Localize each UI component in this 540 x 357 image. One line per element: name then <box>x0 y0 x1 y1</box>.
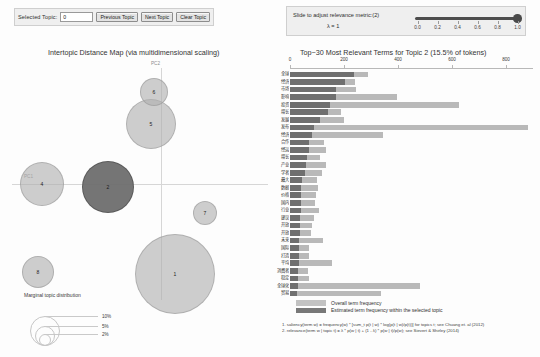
bar-chart-row[interactable]: 最大 <box>272 177 534 184</box>
bar-topic-frequency <box>290 87 336 93</box>
bar-term-label[interactable]: 学者 <box>272 170 289 176</box>
bar-term-label[interactable]: 开放 <box>272 222 289 228</box>
slider-tick-label: 0.0 <box>414 25 420 30</box>
bar-term-label[interactable]: 经济 <box>272 79 289 85</box>
bar-chart-row[interactable]: 稳定 <box>272 275 534 282</box>
bar-chart-row[interactable]: 学者 <box>272 169 534 176</box>
bar-chart-row[interactable]: 合作 <box>272 139 534 146</box>
bar-term-label[interactable]: 消费者 <box>272 268 289 274</box>
bar-term-label[interactable]: 平均 <box>272 260 289 266</box>
bar-topic-frequency <box>290 185 301 191</box>
marginal-legend-label: 5% <box>102 324 109 329</box>
bar-term-label[interactable]: 建议 <box>272 215 289 221</box>
bar-topic-frequency <box>290 170 305 176</box>
bar-chart-row[interactable]: 消费者 <box>272 267 534 274</box>
bar-term-label[interactable]: 价格 <box>272 192 289 198</box>
bar-chart-row[interactable]: 国际 <box>272 245 534 252</box>
bar-chart-row[interactable]: 发布 <box>272 124 534 131</box>
bar-chart-axis <box>290 68 533 69</box>
bar-term-label[interactable]: 开放 <box>272 230 289 236</box>
bar-chart-row[interactable]: 产业 <box>272 162 534 169</box>
relevance-instruction: Slide to adjust relevance metric:(2) <box>293 12 379 18</box>
bar-chart-row[interactable]: 建议 <box>272 214 534 221</box>
bar-chart-row[interactable]: 未来 <box>272 237 534 244</box>
bar-term-label[interactable]: 产业 <box>272 162 289 168</box>
previous-topic-button[interactable]: Previous Topic <box>96 12 138 22</box>
bar-chart-row[interactable]: 国内 <box>272 199 534 206</box>
bar-chart-row[interactable]: 数据 <box>272 184 534 191</box>
bar-overall-frequency <box>290 283 420 289</box>
selected-topic-input[interactable]: 0 <box>60 12 93 22</box>
topic-circle-label-7: 7 <box>204 210 207 216</box>
intertopic-distance-map[interactable]: PC2 PC1 1245678 <box>12 60 268 300</box>
bar-chart-row[interactable]: 市场 <box>272 86 534 93</box>
bar-chart-row[interactable]: 开放 <box>272 222 534 229</box>
bar-chart-row[interactable]: 行业 <box>272 207 534 214</box>
bar-term-label[interactable]: 行业 <box>272 207 289 213</box>
bar-term-label[interactable]: 增长 <box>272 154 289 160</box>
bar-chart-row[interactable]: 经济 <box>272 131 534 138</box>
bar-term-label[interactable]: 发展 <box>272 117 289 123</box>
bar-topic-frequency <box>290 155 307 161</box>
marginal-legend-title: Marginal topic distribution <box>24 292 81 298</box>
bar-chart-row[interactable]: 平均 <box>272 260 534 267</box>
bar-term-label[interactable]: 最大 <box>272 177 289 183</box>
bar-term-label[interactable]: 全球 <box>272 71 289 77</box>
bar-term-label[interactable]: 打造 <box>272 253 289 259</box>
bar-legend-label: Overall term frequency <box>331 300 382 306</box>
bar-term-label[interactable]: 国际 <box>272 245 289 251</box>
bar-topic-frequency <box>290 192 301 198</box>
marginal-legend-label: 2% <box>102 332 109 337</box>
bar-overall-frequency <box>290 291 381 297</box>
bar-term-label[interactable]: 国内 <box>272 200 289 206</box>
bar-topic-frequency <box>290 140 309 146</box>
footnote: 2. relevance(term w | topic t) = λ * p(w… <box>282 328 538 334</box>
bar-topic-frequency <box>290 215 300 221</box>
bar-chart-row[interactable]: 价格 <box>272 192 534 199</box>
bar-term-label[interactable]: 市场 <box>272 86 289 92</box>
bar-topic-frequency <box>290 291 297 297</box>
slider-tick-label: 0.8 <box>494 25 500 30</box>
bar-term-label[interactable]: 数据 <box>272 185 289 191</box>
relevance-slider[interactable]: 0.00.20.40.60.81.0 <box>415 13 519 33</box>
bar-chart-row[interactable]: 发展 <box>272 116 534 123</box>
bar-topic-frequency <box>290 72 354 78</box>
bar-chart-xtick-label: 200 <box>340 57 348 62</box>
bar-term-label[interactable]: 合作 <box>272 139 289 145</box>
slider-tick-label: 0.4 <box>454 25 460 30</box>
bar-chart-row[interactable]: 影响 <box>272 94 534 101</box>
ldavis-app: Selected Topic: 0 Previous Topic Next To… <box>0 0 540 357</box>
bar-term-label[interactable]: 经运 <box>272 147 289 153</box>
bar-chart-xtick <box>506 65 507 68</box>
bar-chart-row[interactable]: 贸易 <box>272 290 534 297</box>
bar-chart-row[interactable]: 增长 <box>272 154 534 161</box>
marginal-topic-distribution-legend: Marginal topic distribution 2%5%10% <box>20 292 150 354</box>
bar-legend-swatch <box>296 300 326 306</box>
bar-chart-row[interactable]: 全球 <box>272 71 534 78</box>
bar-chart-row[interactable]: 增长 <box>272 109 534 116</box>
bar-chart-row[interactable]: 全球化 <box>272 282 534 289</box>
bar-term-label[interactable]: 发布 <box>272 124 289 130</box>
clear-topic-button[interactable]: Clear Topic <box>176 12 210 22</box>
bar-term-label[interactable]: 经济 <box>272 132 289 138</box>
bar-term-label[interactable]: 全球化 <box>272 283 289 289</box>
bar-chart-row[interactable]: 经运 <box>272 147 534 154</box>
bar-chart-row[interactable]: 打造 <box>272 252 534 259</box>
bar-chart-row[interactable]: 开放 <box>272 230 534 237</box>
bar-term-label[interactable]: 贸易 <box>272 290 289 296</box>
bar-topic-frequency <box>290 117 320 123</box>
bar-term-label[interactable]: 未来 <box>272 237 289 243</box>
bar-term-label[interactable]: 投资 <box>272 102 289 108</box>
bar-chart-row[interactable]: 投资 <box>272 101 534 108</box>
bar-chart-row[interactable]: 经济 <box>272 79 534 86</box>
bar-term-label[interactable]: 影响 <box>272 94 289 100</box>
lambda-value: λ = 1 <box>327 23 339 29</box>
bar-term-label[interactable]: 增长 <box>272 109 289 115</box>
slider-track[interactable] <box>415 17 519 20</box>
pc2-axis-label: PC2 <box>151 61 160 66</box>
next-topic-button[interactable]: Next Topic <box>141 12 173 22</box>
top-terms-title: Top−30 Most Relevant Terms for Topic 2 (… <box>300 48 487 57</box>
bar-chart-xtick-label: 400 <box>394 57 402 62</box>
bar-term-label[interactable]: 稳定 <box>272 275 289 281</box>
footnote-group: 1. saliency(term w) = frequency(w) * [su… <box>282 322 538 334</box>
